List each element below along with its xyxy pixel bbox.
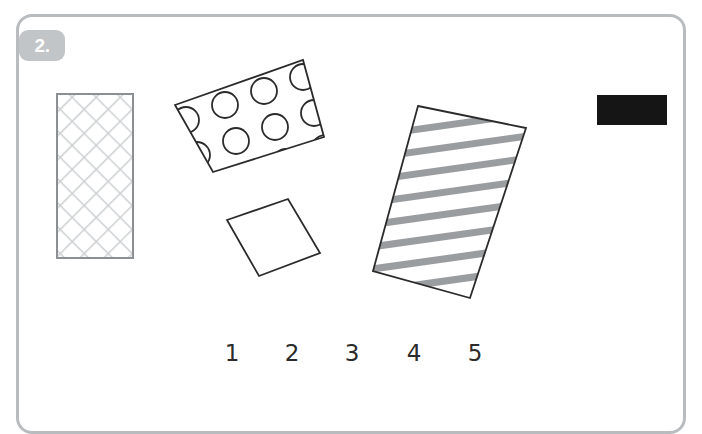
figure-solid-black-rectangle: [597, 95, 667, 125]
number-label-1: 1: [218, 340, 246, 366]
plain-rectangle-shape: [227, 199, 320, 276]
figure-striped-rectangle: [345, 106, 556, 298]
number-label-2: 2: [278, 340, 306, 366]
figure-plain-rectangle: [227, 199, 320, 276]
number-label-5: 5: [461, 340, 489, 366]
figure-polka-dot-rectangle: [163, 28, 338, 203]
crosshatch-rectangle-shape: [57, 94, 133, 258]
polka-dot: [241, 42, 267, 68]
solid-black-rectangle-shape: [597, 95, 667, 125]
polka-dot: [273, 149, 299, 175]
polka-dot: [280, 28, 306, 54]
polka-dot: [163, 71, 189, 97]
number-label-3: 3: [338, 340, 366, 366]
polka-dot: [195, 177, 221, 203]
figure-crosshatch-rectangle: [57, 94, 133, 258]
exercise-number-badge: 2.: [19, 30, 65, 61]
polka-dot: [202, 56, 228, 82]
polka-dot: [234, 163, 260, 189]
number-label-4: 4: [400, 340, 428, 366]
